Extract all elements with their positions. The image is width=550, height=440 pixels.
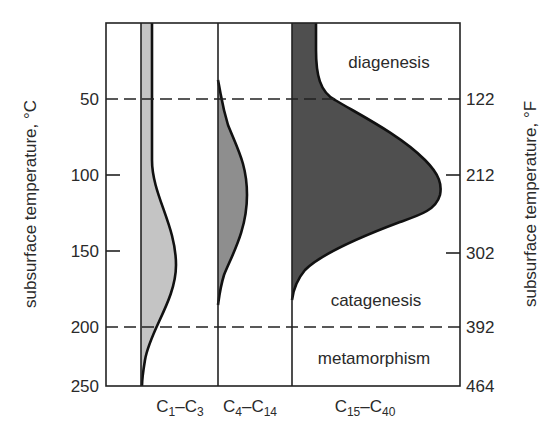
zone-label-diagenesis: diagenesis bbox=[348, 53, 429, 72]
left-tick-label: 200 bbox=[71, 318, 99, 337]
left-tick-label: 50 bbox=[80, 90, 99, 109]
zone-label-catagenesis: catagenesis bbox=[331, 291, 422, 310]
right-tick-label: 212 bbox=[466, 166, 494, 185]
left-tick-label: 150 bbox=[71, 242, 99, 261]
column-label-c1-c3: C1–C3 bbox=[156, 397, 204, 419]
right-axis-title: subsurface temperature, °F bbox=[521, 101, 540, 307]
left-tick-label: 250 bbox=[71, 377, 99, 396]
left-tick-label: 100 bbox=[71, 166, 99, 185]
c4-c14-curve bbox=[218, 80, 247, 305]
c1-c3-curve bbox=[141, 23, 176, 386]
left-axis-title: subsurface temperature, °C bbox=[21, 100, 40, 308]
right-tick-label: 464 bbox=[466, 377, 494, 396]
column-label-c4-c14: C4–C14 bbox=[223, 397, 277, 419]
right-tick-label: 392 bbox=[466, 318, 494, 337]
column-label-c15-c40: C15–C40 bbox=[335, 397, 396, 419]
oil-generation-chart: 50 100 150 200 250 122 212 302 392 464 s… bbox=[0, 0, 550, 440]
right-tick-label: 302 bbox=[466, 244, 494, 263]
zone-label-metamorphism: metamorphism bbox=[318, 349, 430, 368]
right-tick-label: 122 bbox=[466, 90, 494, 109]
